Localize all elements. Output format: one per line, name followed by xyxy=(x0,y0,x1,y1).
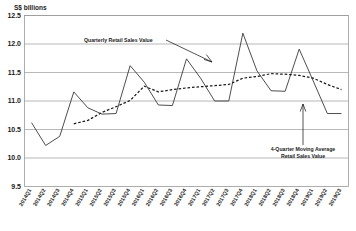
x-axis-tick: 2014Q2 xyxy=(32,188,47,208)
y-axis-tick: 11.0 xyxy=(8,97,21,104)
x-axis-tick: 2017Q4 xyxy=(229,188,244,208)
x-axis-tick: 2018Q2 xyxy=(257,188,272,208)
x-axis-tick: 2015Q4 xyxy=(116,188,131,208)
x-axis-tick: 2016Q4 xyxy=(173,188,188,208)
x-axis-tick: 2014Q3 xyxy=(46,188,61,208)
y-axis-tick: 12.5 xyxy=(7,12,21,19)
x-axis-tick: 2014Q1 xyxy=(18,188,33,208)
y-axis-title: S$ billions xyxy=(14,4,47,12)
x-axis-tick: 2016Q2 xyxy=(144,188,159,208)
x-axis-tick: 2019Q3 xyxy=(328,188,343,208)
x-axis-tick: 2016Q3 xyxy=(158,188,173,208)
annotation-moving-average: 4-Quarter Moving Average Retail Sales Va… xyxy=(271,104,336,159)
x-axis-tick: 2014Q4 xyxy=(60,188,75,208)
x-axis-tick-labels: 2014Q12014Q22014Q32014Q42015Q12015Q22015… xyxy=(18,188,343,208)
annotation-moving-average-label-2: Retail Sales Value xyxy=(281,153,325,159)
y-axis-tick: 9.5 xyxy=(11,183,21,190)
y-axis-tick: 10.5 xyxy=(7,126,21,133)
y-axis-tick: 10.0 xyxy=(7,154,21,161)
x-axis-tick: 2015Q2 xyxy=(88,188,103,208)
x-axis-tick: 2018Q3 xyxy=(271,188,286,208)
x-axis-tick: 2019Q1 xyxy=(299,188,314,208)
y-axis-tick-labels: 9.510.010.511.011.512.012.5 xyxy=(7,12,21,190)
x-axis-tick: 2017Q2 xyxy=(201,188,216,208)
annotation-moving-average-label-1: 4-Quarter Moving Average xyxy=(271,146,336,152)
y-axis-tick: 11.5 xyxy=(8,69,21,76)
y-axis-tick: 12.0 xyxy=(7,40,21,47)
x-axis-tick: 2019Q2 xyxy=(313,188,328,208)
retail-sales-chart: 9.510.010.511.011.512.012.5 2014Q12014Q2… xyxy=(0,0,356,231)
chart-canvas: 9.510.010.511.011.512.012.5 2014Q12014Q2… xyxy=(0,0,356,231)
x-axis-tick: 2018Q1 xyxy=(243,188,258,208)
x-axis-tick: 2016Q1 xyxy=(130,188,145,208)
x-axis-tick: 2017Q1 xyxy=(187,188,202,208)
annotation-quarterly-label: Quarterly Retail Sales Value xyxy=(84,37,153,43)
gridlines xyxy=(25,16,349,159)
moving-average-line xyxy=(74,74,342,124)
x-axis-tick: 2015Q1 xyxy=(74,188,89,208)
x-axis-tick: 2017Q3 xyxy=(215,188,230,208)
x-axis-tick: 2015Q3 xyxy=(102,188,117,208)
annotation-quarterly: Quarterly Retail Sales Value xyxy=(84,37,212,62)
x-axis-tick: 2018Q4 xyxy=(285,188,300,208)
